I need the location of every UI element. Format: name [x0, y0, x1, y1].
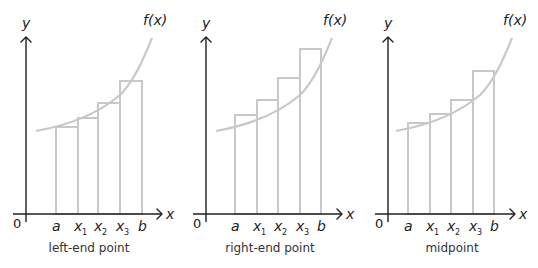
riemann-rectangle — [235, 115, 257, 214]
x-axis-label: x — [165, 206, 175, 222]
svg-text:b: b — [138, 218, 147, 234]
svg-text:1: 1 — [434, 228, 439, 237]
riemann-rectangle — [430, 114, 451, 214]
tick-label: x2 — [273, 218, 287, 237]
svg-text:b: b — [490, 218, 499, 234]
x-axis-label: x — [345, 206, 355, 222]
tick-label: a — [404, 218, 413, 234]
panel-mid: yx0f(x)ax1x2x3bmidpoint — [375, 12, 528, 255]
riemann-rectangle — [78, 118, 98, 214]
tick-label: a — [52, 218, 61, 234]
tick-label: x1 — [252, 218, 266, 237]
svg-text:3: 3 — [124, 228, 129, 237]
tick-label: x3 — [295, 218, 309, 237]
tick-label: b — [138, 218, 147, 234]
svg-text:a: a — [404, 218, 413, 234]
svg-text:1: 1 — [82, 228, 87, 237]
svg-text:a: a — [231, 218, 240, 234]
svg-text:a: a — [52, 218, 61, 234]
svg-text:2: 2 — [455, 228, 460, 237]
riemann-rectangle — [56, 127, 78, 214]
tick-label: x3 — [468, 218, 482, 237]
panel-left: yx0f(x)ax1x2x3bleft-end point — [13, 12, 175, 255]
svg-text:1: 1 — [261, 228, 266, 237]
function-label: f(x) — [143, 12, 167, 28]
function-curve — [216, 38, 332, 131]
tick-label: x3 — [115, 218, 129, 237]
svg-text:2: 2 — [102, 228, 107, 237]
riemann-rectangle — [257, 100, 278, 214]
function-label: f(x) — [503, 12, 527, 28]
origin-label: 0 — [193, 216, 201, 231]
tick-label: a — [231, 218, 240, 234]
riemann-rectangle — [408, 123, 430, 214]
svg-text:3: 3 — [304, 228, 309, 237]
y-axis-label: y — [383, 15, 393, 31]
riemann-rectangle — [451, 100, 473, 214]
riemann-rectangle — [120, 81, 142, 214]
tick-label: x2 — [93, 218, 107, 237]
origin-label: 0 — [13, 216, 21, 231]
panel-caption: midpoint — [425, 241, 479, 255]
tick-label: b — [490, 218, 499, 234]
origin-label: 0 — [375, 216, 383, 231]
tick-label: x1 — [425, 218, 439, 237]
x-axis-label: x — [518, 206, 528, 222]
panel-right: yx0f(x)ax1x2x3bright-end point — [193, 12, 355, 255]
riemann-rectangle — [98, 103, 120, 214]
function-label: f(x) — [323, 12, 347, 28]
rectangles — [56, 81, 142, 214]
svg-text:2: 2 — [282, 228, 287, 237]
svg-text:3: 3 — [477, 228, 482, 237]
svg-text:b: b — [317, 218, 326, 234]
panel-caption: left-end point — [49, 241, 130, 255]
tick-label: b — [317, 218, 326, 234]
panel-caption: right-end point — [225, 241, 315, 255]
y-axis-label: y — [21, 15, 31, 31]
tick-label: x2 — [446, 218, 460, 237]
tick-label: x1 — [73, 218, 87, 237]
riemann-rectangle — [300, 49, 321, 214]
y-axis-label: y — [201, 15, 211, 31]
rectangles — [235, 49, 321, 214]
riemann-sum-diagram: yx0f(x)ax1x2x3bleft-end pointyx0f(x)ax1x… — [0, 0, 538, 268]
